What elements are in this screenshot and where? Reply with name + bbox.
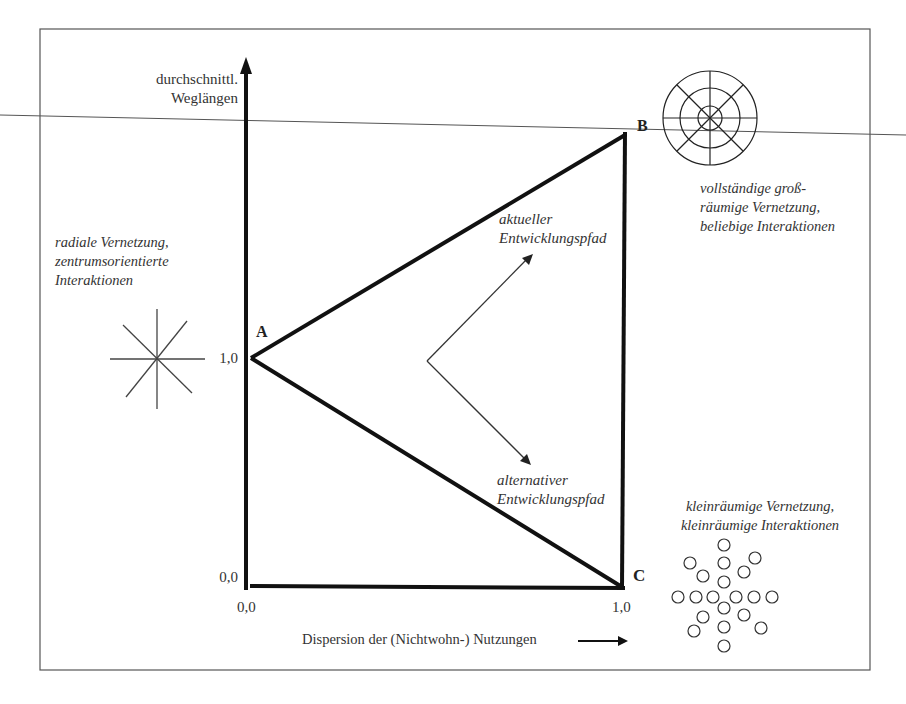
y-axis-label-line2: Weglängen [140,89,238,108]
current-path-label-line1: aktueller [499,210,607,229]
point-c-label: C [633,566,645,585]
y-axis-label-line1: durchschnittl. [140,70,238,89]
alternative-path-label: alternativer Entwicklungspfad [497,471,605,509]
radial-annotation-line1: radiale Vernetzung, [55,233,169,252]
radial-star-icon [110,309,205,409]
alternative-path-label-line2: Entwicklungspfad [497,490,605,509]
radial-annotation: radiale Vernetzung, zentrumsorientierte … [55,233,169,290]
small-cluster-icon [672,539,778,652]
alternative-path-label-line1: alternativer [497,471,605,490]
radial-annotation-line3: Interaktionen [55,271,169,290]
web-network-icon [663,71,757,165]
small-network-annotation: kleinräumige Vernetzung, kleinräumige In… [660,497,860,535]
x-axis-label: Dispersion der (Nichtwohn-) Nutzungen [302,630,537,649]
current-path-label: aktueller Entwicklungspfad [499,210,607,248]
current-path-label-line2: Entwicklungspfad [499,229,607,248]
small-network-annotation-line1: kleinräumige Vernetzung, [660,497,860,516]
small-network-annotation-line2: kleinräumige Interaktionen [660,516,860,535]
y-axis-arrow-icon [240,57,252,74]
x-axis [250,586,625,588]
y-tick-top: 1,0 [200,349,238,368]
alternative-path-arrow [427,361,526,460]
point-a-label: A [256,322,268,341]
stray-line [0,115,906,135]
y-axis-label: durchschnittl. Weglängen [140,70,238,108]
edge-bc [622,132,625,588]
x-tick-origin: 0,0 [237,598,256,617]
x-label-arrowhead-icon [618,636,628,646]
full-network-annotation-line3: beliebige Interaktionen [700,217,835,236]
full-network-annotation: vollständige groß- räumige Vernetzung, b… [700,179,835,236]
diagram-canvas [0,0,906,704]
point-b-label: B [637,116,648,135]
radial-annotation-line2: zentrumsorientierte [55,252,169,271]
full-network-annotation-line1: vollständige groß- [700,179,835,198]
current-path-arrow [427,258,528,361]
full-network-annotation-line2: räumige Vernetzung, [700,198,835,217]
x-tick-end: 1,0 [612,598,631,617]
y-tick-origin: 0,0 [200,568,238,587]
